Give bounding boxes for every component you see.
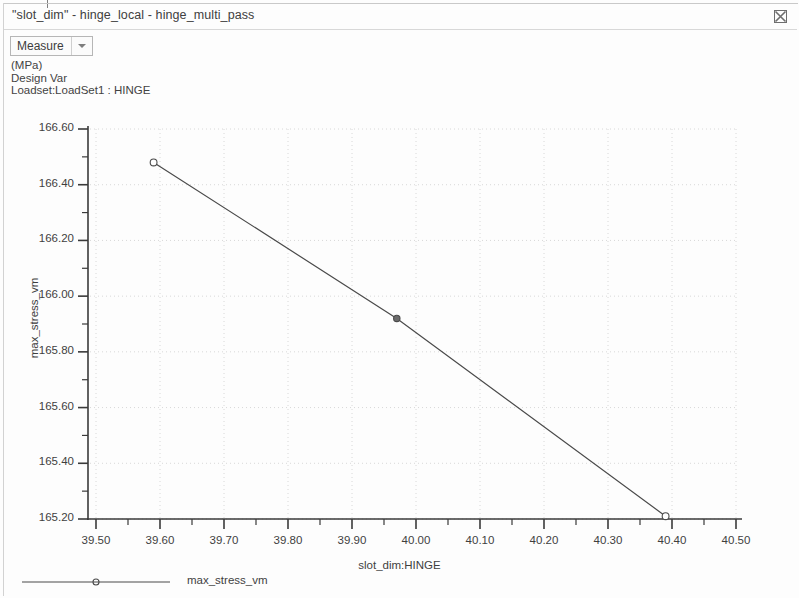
chart-series xyxy=(150,159,669,520)
chart-gridlines xyxy=(90,129,736,519)
plot-loadset-line: Loadset:LoadSet1 : HINGE xyxy=(11,85,150,97)
title-bar: "slot_dim" - hinge_local - hinge_multi_p… xyxy=(4,4,797,30)
chart-ticks xyxy=(78,129,736,529)
y-tick-label: 166.60 xyxy=(39,121,74,133)
data-point-marker[interactable] xyxy=(150,159,157,166)
legend-line-swatch xyxy=(22,576,170,588)
y-tick-label: 166.40 xyxy=(39,177,74,189)
series-line xyxy=(154,162,666,516)
chart-axes xyxy=(87,126,742,520)
plot-designvar-line: Design Var xyxy=(11,73,150,85)
plot-units-line: (MPa) xyxy=(11,60,150,72)
y-tick-label: 165.60 xyxy=(39,400,74,412)
x-axis-title: slot_dim:HINGE xyxy=(0,559,799,571)
plot-window: "slot_dim" - hinge_local - hinge_multi_p… xyxy=(0,0,799,598)
measure-dropdown-arrow[interactable] xyxy=(71,37,92,55)
y-tick-label: 166.20 xyxy=(39,232,74,244)
window-frame-left-edge xyxy=(3,3,4,596)
y-axis-title: max_stress_vm xyxy=(28,263,40,373)
close-icon[interactable] xyxy=(774,10,787,23)
data-point-marker[interactable] xyxy=(394,315,400,321)
legend-entry-label: max_stress_vm xyxy=(187,574,268,586)
plot-header-text: (MPa) Design Var Loadset:LoadSet1 : HING… xyxy=(11,60,150,98)
y-tick-label: 166.00 xyxy=(39,288,74,300)
y-tick-label: 165.20 xyxy=(39,511,74,523)
chart-legend: max_stress_vm xyxy=(12,574,412,592)
data-point-marker[interactable] xyxy=(662,513,669,520)
measure-dropdown[interactable]: Measure xyxy=(10,36,93,56)
window-title: "slot_dim" - hinge_local - hinge_multi_p… xyxy=(12,8,254,22)
y-tick-label: 165.40 xyxy=(39,455,74,467)
y-tick-label: 165.80 xyxy=(39,344,74,356)
chevron-down-icon xyxy=(78,44,86,48)
measure-dropdown-label: Measure xyxy=(11,39,71,53)
x-tick-label: 40.50 xyxy=(0,534,799,546)
